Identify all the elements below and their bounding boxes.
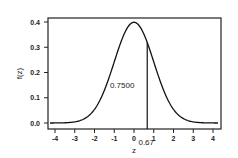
y-axis-label: f(z)	[15, 67, 24, 79]
x-tick-label: -2	[91, 135, 97, 142]
area-label: 0.7500	[110, 81, 135, 90]
x-tick-label: 3	[191, 135, 195, 142]
x-tick-label: -3	[72, 135, 78, 142]
y-tick-label: 0.1	[30, 94, 40, 101]
x-axis-label: z	[132, 146, 136, 155]
x-tick-label: 0	[132, 135, 136, 142]
y-tick-label: 0.3	[30, 44, 40, 51]
y-tick-label: 0.0	[30, 120, 40, 127]
x-tick-label: 2	[172, 135, 176, 142]
x-tick-label: 4	[211, 135, 215, 142]
plot-frame	[48, 18, 221, 129]
x-tick-label: -4	[52, 135, 58, 142]
normal-curve	[50, 22, 218, 123]
y-tick-label: 0.2	[30, 69, 40, 76]
x-tick-label: -1	[111, 135, 117, 142]
chart: 0.00.10.20.30.4-4-3-2-101234zf(z)0.670.7…	[0, 0, 238, 158]
cutoff-label: 0.67	[138, 138, 154, 147]
y-tick-label: 0.4	[30, 19, 40, 26]
